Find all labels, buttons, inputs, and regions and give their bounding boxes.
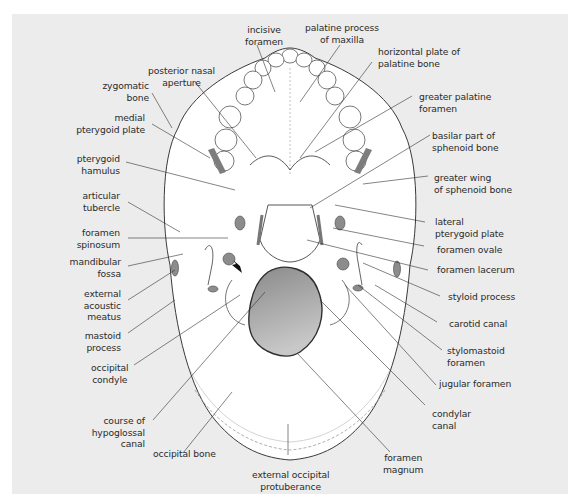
right-external-acoustic-meatus (394, 261, 401, 277)
label-external-occipital-protuberance: external occipital protuberance (252, 469, 329, 492)
label-pterygoid-hamulus: pterygoid hamulus (60, 153, 120, 176)
label-course-of-hypoglossal-canal: course of hypoglossal canal (80, 415, 145, 450)
left-external-acoustic-meatus (172, 260, 179, 276)
label-jugular-foramen: jugular foramen (439, 378, 511, 390)
label-greater-wing-of-sphenoid-bone: greater wing of sphenoid bone (434, 172, 512, 195)
label-greater-palatine-foramen: greater palatine foramen (419, 91, 491, 114)
label-condylar-canal: condylar canal (432, 408, 471, 431)
label-palatine-process-of-maxilla: palatine process of maxilla (305, 22, 379, 45)
label-foramen-spinosum: foramen spinosum (60, 227, 120, 250)
label-basilar-part-of-sphenoid-bone: basilar part of sphenoid bone (432, 130, 498, 153)
label-external-acoustic-meatus: external acoustic meatus (60, 288, 121, 323)
foramen-magnum (249, 267, 322, 356)
left-foramen-ovale (235, 216, 245, 230)
label-medial-pterygoid-plate: medial pterygoid plate (72, 112, 145, 135)
label-foramen-magnum: foramen magnum (383, 452, 423, 475)
label-mastoid-process: mastoid process (60, 330, 121, 353)
label-foramen-ovale: foramen ovale (437, 244, 502, 256)
left-jugular-foramen (208, 286, 218, 292)
label-zygomatic-bone: zygomatic bone (80, 80, 149, 103)
label-stylomastoid-foramen: stylomastoid foramen (447, 345, 505, 368)
label-carotid-canal: carotid canal (449, 318, 507, 330)
label-articular-tubercle: articular tubercle (60, 190, 120, 213)
label-posterior-nasal-aperture: posterior nasal aperture (148, 65, 215, 88)
right-foramen-ovale (335, 216, 345, 230)
label-incisive-foramen: incisive foramen (245, 24, 283, 47)
right-carotid-canal (337, 258, 349, 270)
left-carotid-canal (223, 253, 235, 265)
label-styloid-process: styloid process (448, 291, 515, 303)
label-lateral-pterygoid-plate: lateral pterygoid plate (435, 216, 504, 239)
label-horizontal-plate-of-palatine-bone: horizontal plate of palatine bone (378, 46, 460, 69)
label-foramen-lacerum: foramen lacerum (437, 264, 515, 276)
label-mandibular-fossa: mandibular fossa (60, 256, 121, 279)
label-occipital-condyle: occipital condyle (91, 362, 129, 385)
label-occipital-bone: occipital bone (153, 448, 216, 460)
